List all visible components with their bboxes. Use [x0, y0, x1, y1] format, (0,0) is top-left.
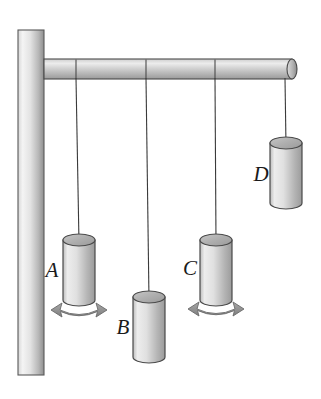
rod-body [44, 59, 292, 79]
horizontal-rod [44, 59, 297, 79]
pendulum-A: A [44, 78, 107, 317]
pendulum-bob-top-D [270, 137, 302, 149]
pendulum-label-B: B [117, 315, 130, 339]
pendulum-label-A: A [44, 258, 59, 282]
rod-end-cap [287, 59, 297, 79]
pendulum-bob-top-A [63, 234, 95, 246]
pendulum-string-D [285, 78, 286, 146]
pendulum-label-D: D [252, 162, 268, 186]
pendulum-diagram: A B C D [0, 0, 321, 399]
pendulum-bob-B [133, 297, 165, 363]
pendulum-bob-D [270, 143, 302, 209]
pendulum-bob-top-B [133, 291, 165, 303]
pendulum-group: A B C D [44, 78, 302, 363]
vertical-wall-post [18, 30, 44, 375]
pendulum-bob-top-C [200, 234, 232, 246]
pendulum-string-A [76, 78, 79, 243]
pendulum-label-C: C [183, 256, 198, 280]
diagram-canvas: A B C D [0, 0, 321, 399]
pendulum-string-C [215, 78, 216, 243]
pendulum-B: B [117, 78, 165, 363]
pendulum-C: C [183, 78, 244, 316]
pendulum-string-B [146, 78, 149, 300]
pendulum-D: D [252, 78, 302, 209]
pendulum-bob-A [63, 240, 95, 306]
pendulum-bob-C [200, 240, 232, 306]
